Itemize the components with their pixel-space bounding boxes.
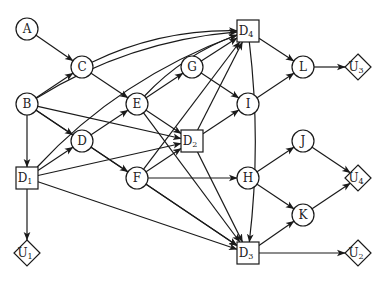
nodes-layer: ABCDEFGHIJKLD1D2D3D4U1U2U3U4 <box>14 18 371 266</box>
decision-node-d3: D3 <box>237 242 259 264</box>
edge-d-to-f <box>91 147 128 172</box>
node-subscript: 4 <box>359 177 364 186</box>
edge-f-to-d2 <box>146 148 181 171</box>
edge-d2-to-d3 <box>198 152 243 242</box>
node-subscript: 2 <box>192 140 197 149</box>
edge-d2-to-i <box>203 110 239 134</box>
chance-node-h: H <box>237 167 259 189</box>
edge-b-to-c <box>36 73 73 98</box>
influence-diagram: ABCDEFGHIJKLD1D2D3D4U1U2U3U4 <box>0 0 388 285</box>
decision-node-d2: D2 <box>181 130 203 152</box>
chance-node-j: J <box>292 130 314 152</box>
decision-node-d4: D4 <box>237 20 259 42</box>
utility-node-u2: U2 <box>345 240 371 266</box>
edge-e-to-d2 <box>146 110 181 133</box>
edge-f-to-d3 <box>146 184 237 245</box>
node-label: B <box>23 97 32 111</box>
utility-node-u4: U4 <box>345 165 371 191</box>
chance-node-l: L <box>292 56 314 78</box>
node-label: J <box>299 134 306 148</box>
utility-node-u1: U1 <box>14 240 40 266</box>
node-subscript: 2 <box>359 252 364 261</box>
node-label: C <box>77 60 86 74</box>
edge-d1-to-d3 <box>38 182 237 250</box>
edge-a-to-c <box>36 35 73 60</box>
chance-node-a: A <box>16 18 38 40</box>
edge-d-to-e <box>91 110 128 135</box>
node-subscript: 1 <box>28 252 33 261</box>
chance-node-f: F <box>126 167 148 189</box>
edge-h-to-j <box>257 147 294 172</box>
node-subscript: 3 <box>248 252 253 261</box>
edge-b-to-d4 <box>36 32 237 98</box>
chance-node-e: E <box>126 93 148 115</box>
node-label: E <box>133 97 142 111</box>
node-subscript: 3 <box>359 66 364 75</box>
edge-h-to-k <box>257 184 294 209</box>
edge-d2-to-d4 <box>198 42 243 130</box>
node-label: L <box>299 60 307 74</box>
chance-node-b: B <box>16 93 38 115</box>
chance-node-c: C <box>71 56 93 78</box>
edge-d4-to-l <box>259 38 294 61</box>
edge-k-to-u4 <box>312 183 350 209</box>
node-label: D <box>77 134 87 148</box>
node-subscript: 1 <box>27 177 32 186</box>
decision-node-d1: D1 <box>16 167 38 189</box>
chance-node-d: D <box>71 130 93 152</box>
utility-node-u3: U3 <box>345 54 371 80</box>
node-label: K <box>299 208 309 222</box>
chance-node-i: I <box>237 93 259 115</box>
edge-d1-to-d <box>38 147 73 170</box>
edge-i-to-l <box>257 73 294 98</box>
node-label: A <box>22 22 32 36</box>
edge-j-to-u4 <box>312 147 350 173</box>
chance-node-g: G <box>181 56 203 78</box>
node-subscript: 4 <box>248 30 253 39</box>
node-label: H <box>243 171 253 185</box>
node-label: F <box>133 171 141 185</box>
node-label: G <box>187 60 197 74</box>
edge-c-to-d4 <box>92 31 237 63</box>
edge-d3-to-k <box>259 221 294 245</box>
edge-d4-to-d3 <box>249 42 255 242</box>
node-label: I <box>246 97 251 111</box>
chance-node-k: K <box>292 204 314 226</box>
